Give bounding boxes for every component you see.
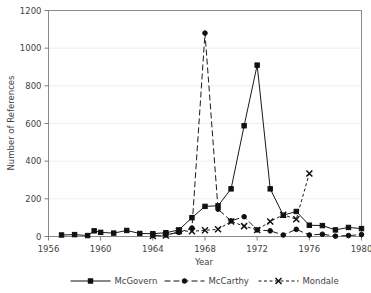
legend-label-mcgovern: McGovern (115, 276, 158, 286)
marker-mcgovern-1971 (242, 124, 246, 128)
data-series-layer (59, 31, 363, 239)
marker-mondale-1969 (215, 226, 221, 232)
y-axis-ticks: 020040060080010001200 (20, 6, 49, 242)
x-axis-ticks: 1956196019641968197219761980 (38, 237, 371, 254)
series-mondale (150, 170, 313, 239)
marker-mcgovern-1980 (359, 226, 363, 230)
y-tick-label-400: 400 (25, 156, 41, 166)
marker-mondale-1976 (306, 170, 312, 176)
marker-mcgovern-1977 (320, 223, 324, 227)
marker-mondale-1975 (293, 216, 299, 222)
legend-label-mondale: Mondale (303, 276, 339, 286)
gridlines (49, 48, 362, 199)
marker-mccarthy-1978 (333, 234, 338, 239)
legend-item-mcgovern[interactable]: McGovern (71, 276, 158, 286)
marker-mcgovern-1967 (190, 215, 194, 219)
marker-mccarthy-1980 (359, 232, 364, 237)
legend-item-mondale[interactable]: Mondale (259, 276, 339, 286)
marker-mcgovern-1961 (112, 231, 116, 235)
marker-mccarthy-1973 (268, 229, 273, 234)
marker-mcgovern-1959.5 (92, 229, 96, 233)
x-tick-label-1980: 1980 (351, 244, 371, 254)
marker-mcgovern-1968 (203, 204, 207, 208)
y-tick-label-200: 200 (25, 194, 41, 204)
x-tick-label-1960: 1960 (90, 244, 112, 254)
legend-marker-mcgovern (88, 279, 92, 283)
marker-mcgovern-1976 (307, 223, 311, 227)
marker-mccarthy-1976 (307, 233, 312, 238)
marker-mcgovern-1975 (294, 209, 298, 213)
x-tick-label-1968: 1968 (194, 244, 216, 254)
series-line-mcgovern (62, 65, 362, 235)
marker-mccarthy-1974 (281, 233, 286, 238)
x-tick-label-1956: 1956 (38, 244, 60, 254)
marker-mcgovern-1958 (72, 232, 76, 236)
marker-mcgovern-1979 (346, 225, 350, 229)
series-mccarthy (151, 31, 364, 239)
y-tick-label-0: 0 (36, 232, 41, 242)
marker-mcgovern-1957 (59, 233, 63, 237)
marker-mccarthy-1969 (216, 207, 221, 212)
marker-mccarthy-1971 (242, 214, 247, 219)
marker-mcgovern-1959 (85, 233, 89, 237)
marker-mccarthy-1977 (320, 232, 325, 237)
marker-mondale-1971 (241, 223, 247, 229)
marker-mcgovern-1978 (333, 228, 337, 232)
marker-mccarthy-1979 (346, 233, 351, 238)
references-by-year-line-chart: 020040060080010001200 195619601964196819… (0, 0, 371, 293)
marker-mcgovern-1962 (125, 228, 129, 232)
marker-mondale-1973 (267, 218, 273, 224)
marker-mcgovern-1973 (268, 187, 272, 191)
y-axis-title: Number of References (6, 75, 16, 171)
marker-mcgovern-1972 (255, 63, 259, 67)
marker-mcgovern-1960 (98, 230, 102, 234)
y-tick-label-1200: 1200 (20, 6, 42, 16)
x-axis-title: Year (194, 257, 214, 267)
y-tick-label-600: 600 (25, 119, 41, 129)
marker-mccarthy-1968 (203, 31, 208, 36)
series-mcgovern (59, 63, 363, 238)
series-line-mondale (153, 173, 309, 236)
x-tick-label-1964: 1964 (142, 244, 164, 254)
chart-container: 020040060080010001200 195619601964196819… (0, 0, 371, 293)
y-tick-label-1000: 1000 (20, 43, 42, 53)
chart-legend: McGovernMcCarthyMondale (71, 276, 339, 286)
legend-item-mccarthy[interactable]: McCarthy (165, 276, 249, 286)
y-tick-label-800: 800 (25, 81, 41, 91)
legend-marker-mccarthy (182, 279, 187, 284)
marker-mcgovern-1963 (138, 231, 142, 235)
x-tick-label-1976: 1976 (299, 244, 321, 254)
x-tick-label-1972: 1972 (246, 244, 268, 254)
marker-mcgovern-1970 (229, 187, 233, 191)
legend-label-mccarthy: McCarthy (209, 276, 249, 286)
marker-mccarthy-1975 (294, 227, 299, 232)
